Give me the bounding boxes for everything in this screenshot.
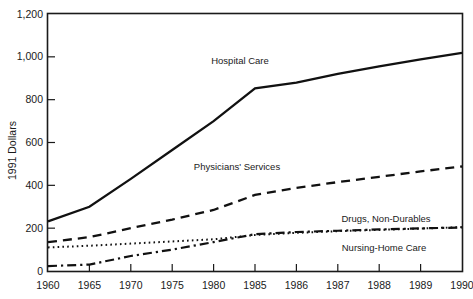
y-tick-label: 1,200 — [17, 8, 43, 20]
line-chart: 1991 Dollars 02004006008001,0001,200 196… — [0, 0, 473, 299]
y-tick-label: 1,000 — [17, 50, 43, 62]
y-tick-label: 0 — [37, 265, 43, 277]
x-tick-label: 1985 — [243, 279, 267, 291]
x-tick-label: 1990 — [450, 279, 473, 291]
x-tick-label: 1970 — [119, 279, 143, 291]
y-tick-label: 400 — [25, 179, 43, 191]
series-annotation: Physicians' Services — [194, 161, 281, 172]
chart-background — [0, 0, 473, 299]
series-annotation: Nursing-Home Care — [342, 242, 426, 253]
chart-page: 1991 Dollars 02004006008001,0001,200 196… — [0, 0, 473, 299]
x-tick-label: 1989 — [409, 279, 433, 291]
y-tick-label: 200 — [25, 222, 43, 234]
series-annotation: Hospital Care — [211, 55, 269, 66]
x-tick-label: 1960 — [36, 279, 60, 291]
x-tick-label: 1975 — [161, 279, 185, 291]
x-tick-label: 1980 — [202, 279, 226, 291]
x-tick-label: 1988 — [368, 279, 392, 291]
y-axis-title: 1991 Dollars — [6, 121, 18, 180]
y-tick-label: 800 — [25, 93, 43, 105]
x-tick-label: 1965 — [78, 279, 102, 291]
series-annotation: Drugs, Non-Durables — [341, 213, 430, 224]
x-tick-label: 1987 — [326, 279, 350, 291]
y-tick-label: 600 — [25, 136, 43, 148]
x-tick-label: 1986 — [285, 279, 309, 291]
